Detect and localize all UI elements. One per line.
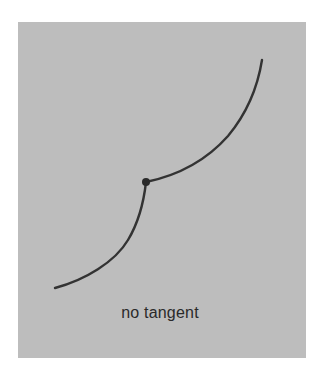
curve-lower-branch bbox=[55, 182, 146, 288]
cusp-point bbox=[142, 178, 150, 186]
curve-upper-branch bbox=[146, 60, 262, 182]
caption-no-tangent: no tangent bbox=[0, 304, 320, 322]
